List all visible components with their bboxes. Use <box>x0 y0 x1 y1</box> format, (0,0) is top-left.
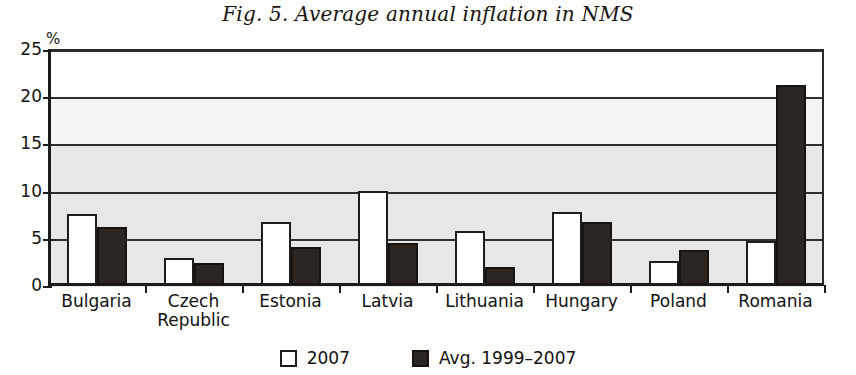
legend-item-0[interactable]: 2007 <box>280 348 350 368</box>
chart-title: Fig. 5. Average annual inflation in NMS <box>0 2 856 26</box>
y-tick-label-10: 10 <box>8 181 42 201</box>
bar-estonia-series-2007 <box>261 222 291 285</box>
y-tick-label-20: 20 <box>8 86 42 106</box>
bar-estonia-series-avg <box>291 247 321 285</box>
bar-poland-series-avg <box>679 250 709 285</box>
y-tick-label-25: 25 <box>8 39 42 59</box>
y-axis-labels: 0510152025 <box>0 49 42 285</box>
chart-legend: 2007Avg. 1999–2007 <box>0 344 856 372</box>
y-tick-label-5: 5 <box>8 228 42 248</box>
bar-hungary-series-avg <box>582 222 612 285</box>
bar-hungary-series-2007 <box>552 212 582 285</box>
y-axis-unit-label: % <box>46 30 60 48</box>
bar-czech-republic-series-2007 <box>164 258 194 285</box>
y-tick-label-15: 15 <box>8 133 42 153</box>
x-axis-label-romania: Romania <box>715 292 836 311</box>
bars-layer <box>48 49 824 285</box>
legend-swatch-light <box>280 350 297 367</box>
bar-latvia-series-avg <box>388 243 418 285</box>
bar-lithuania-series-avg <box>485 267 515 285</box>
bar-bulgaria-series-2007 <box>67 214 97 285</box>
legend-item-1[interactable]: Avg. 1999–2007 <box>412 348 576 368</box>
legend-label-1: Avg. 1999–2007 <box>439 348 576 368</box>
bar-romania-series-2007 <box>746 241 776 285</box>
legend-swatch-dark <box>412 350 429 367</box>
bar-czech-republic-series-avg <box>194 263 224 285</box>
bar-poland-series-2007 <box>649 261 679 285</box>
figure-container: Fig. 5. Average annual inflation in NMS … <box>0 0 856 375</box>
legend-label-0: 2007 <box>307 348 350 368</box>
bar-latvia-series-2007 <box>358 191 388 285</box>
x-axis-labels: BulgariaCzech RepublicEstoniaLatviaLithu… <box>0 292 856 336</box>
bar-lithuania-series-2007 <box>455 231 485 285</box>
y-tick-0 <box>43 286 52 288</box>
bar-romania-series-avg <box>776 85 806 285</box>
bar-bulgaria-series-avg <box>97 227 127 285</box>
